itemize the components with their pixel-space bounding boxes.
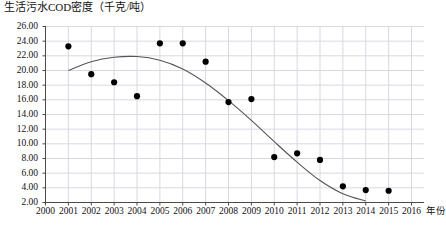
- horizontal-gridlines: [46, 27, 425, 203]
- x-axis-title: 年份: [426, 206, 446, 217]
- data-point: [180, 40, 186, 46]
- data-point: [111, 79, 117, 85]
- data-point: [386, 188, 392, 194]
- data-point: [317, 157, 323, 163]
- x-axis-tick-label: 2016: [397, 206, 427, 217]
- data-point: [294, 150, 300, 156]
- data-point: [65, 43, 71, 49]
- y-axis-tick-label: 12.00: [2, 124, 38, 134]
- y-axis-tick-label: 22.00: [2, 50, 38, 60]
- data-point: [203, 59, 209, 65]
- data-point: [340, 183, 346, 189]
- data-point: [363, 187, 369, 193]
- data-point: [134, 93, 140, 99]
- y-axis-tick-label: 14.00: [2, 109, 38, 119]
- data-point: [88, 71, 94, 77]
- y-axis-tick-label: 20.00: [2, 65, 38, 75]
- y-axis-tick-label: 10.00: [2, 138, 38, 148]
- y-axis-tick-label: 8.00: [2, 153, 38, 163]
- y-axis-tick-label: 4.00: [2, 182, 38, 192]
- y-axis-tick-label: 24.00: [2, 36, 38, 46]
- data-point: [271, 154, 277, 160]
- data-point: [225, 99, 231, 105]
- data-point: [248, 96, 254, 102]
- y-axis-tick-label: 26.00: [2, 21, 38, 31]
- y-axis-tick-label: 6.00: [2, 168, 38, 178]
- y-axis-tick-label: 16.00: [2, 94, 38, 104]
- data-point: [157, 40, 163, 46]
- y-axis-tick-label: 18.00: [2, 80, 38, 90]
